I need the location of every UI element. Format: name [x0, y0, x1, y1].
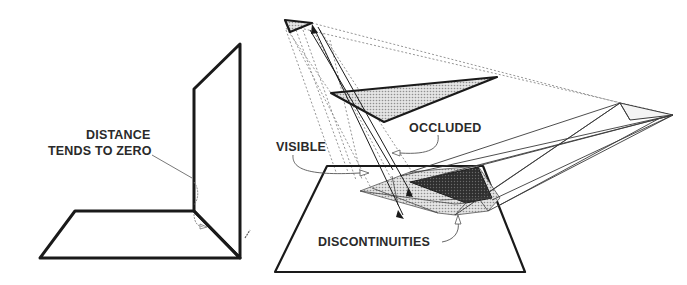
occluded-leader-line: [400, 135, 438, 153]
discontinuities-label: DISCONTINUITIES: [318, 236, 430, 249]
visible-label: VISIBLE: [276, 141, 326, 154]
diagram-figure: DISTANCE TENDS TO ZERO OCCLUDED VISIBLE …: [0, 0, 687, 285]
distance-label-line1: DISTANCE: [86, 129, 151, 142]
distance-leader-line: [152, 155, 192, 178]
arrow-head-icon: [311, 24, 318, 34]
distance-label-line2: TENDS TO ZERO: [48, 145, 152, 158]
wall-plane: [194, 44, 240, 258]
occluded-label: OCCLUDED: [409, 122, 481, 135]
tick-mark: [245, 230, 250, 238]
discontinuities-arrow-icon: [455, 215, 461, 224]
visible-leader-line: [293, 155, 360, 174]
discontinuities-leader-line: [442, 222, 458, 242]
floor-plane: [40, 211, 240, 258]
occluded-arrow-icon: [392, 150, 400, 156]
